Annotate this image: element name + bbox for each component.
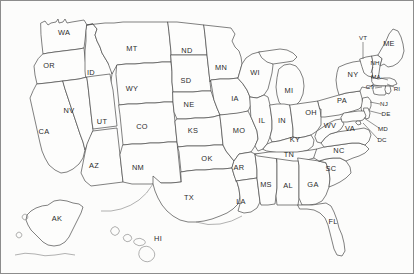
northeast-states-group xyxy=(318,29,404,125)
state-shape-nm xyxy=(120,142,181,184)
state-shape-ks xyxy=(175,115,223,147)
state-shape-la xyxy=(236,178,260,213)
western-states-group xyxy=(30,19,181,186)
state-shape-ri xyxy=(385,86,391,94)
state-shape-ak xyxy=(26,200,83,246)
state-shape-sd xyxy=(171,55,211,92)
us-map-figure: WAORIDMTNDSDMNWIMIWYNEIANVUTCOKSMOILINOH… xyxy=(0,0,414,274)
hawaii-island-oahu xyxy=(123,234,132,242)
hawaii-island-kauai xyxy=(111,227,120,236)
state-shape-mn xyxy=(204,25,242,82)
state-shape-nc xyxy=(314,143,369,161)
state-shape-mi xyxy=(276,64,304,108)
state-shape-nh xyxy=(372,55,382,79)
state-shape-nd xyxy=(168,22,207,55)
state-shape-al xyxy=(276,156,299,205)
state-shape-fl xyxy=(298,203,345,256)
hawaii-island-maui xyxy=(134,238,146,246)
state-shape-me xyxy=(378,29,404,67)
leader-line-nj xyxy=(370,102,380,104)
alaska-island-2 xyxy=(16,232,22,238)
state-shape-in xyxy=(270,104,293,142)
us-map-outline-svg xyxy=(1,1,414,274)
state-shape-ga xyxy=(298,158,330,205)
state-shape-md xyxy=(341,111,366,122)
leader-line-de xyxy=(370,111,382,114)
mexico-coastline xyxy=(101,184,153,211)
state-shape-or xyxy=(34,48,87,84)
state-shape-ma xyxy=(372,77,397,86)
state-shape-co xyxy=(119,102,177,145)
state-shape-wy xyxy=(116,62,173,105)
state-shape-dc xyxy=(356,121,361,125)
hawaii-island-bigisland xyxy=(139,246,155,262)
alaska-aleutian-chain xyxy=(15,253,75,256)
